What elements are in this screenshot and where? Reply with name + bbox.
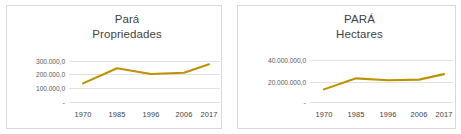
x-tick-label-2006: 2006 [176, 110, 193, 119]
x-tick-label-1985: 1985 [109, 110, 126, 119]
chart-plot-hectares: 40.000.000,0 20.000.000,0 - 1970 1985 19… [238, 6, 456, 129]
gridlines-group-hectares [310, 61, 453, 103]
series-line-hectares [324, 74, 444, 89]
x-tick-label-2006: 2006 [411, 110, 428, 119]
y-axis-labels-propriedades: 300.000,0 200.000,0 100.000,0 - [36, 58, 65, 107]
y-tick-label-40000000: 40.000.000,0 [268, 57, 306, 64]
x-tick-label-2017: 2017 [201, 110, 218, 119]
x-tick-label-1970: 1970 [316, 110, 333, 119]
chart-panel-hectares: PARÁ Hectares 40.000.000,0 20.000.000,0 … [237, 5, 456, 129]
x-tick-label-1996: 1996 [380, 110, 397, 119]
x-tick-label-1985: 1985 [348, 110, 365, 119]
x-tick-label-2017: 2017 [436, 110, 453, 119]
charts-figure: Pará Propriedades 300.000,0 200.000,0 10… [0, 0, 461, 134]
y-tick-label-zero: - [63, 98, 66, 107]
y-tick-label-200000: 200.000,0 [36, 71, 65, 78]
y-axis-labels-hectares: 40.000.000,0 20.000.000,0 - [268, 57, 306, 107]
x-tick-label-1970: 1970 [75, 110, 92, 119]
x-tick-label-1996: 1996 [143, 110, 160, 119]
y-tick-label-zero: - [304, 98, 307, 107]
x-axis-labels-propriedades: 1970 1985 1996 2006 2017 [75, 110, 218, 119]
y-tick-label-100000: 100.000,0 [36, 85, 65, 92]
chart-plot-propriedades: 300.000,0 200.000,0 100.000,0 - 1970 198… [7, 6, 222, 129]
x-axis-labels-hectares: 1970 1985 1996 2006 2017 [316, 110, 453, 119]
y-tick-label-20000000: 20.000.000,0 [268, 79, 306, 86]
y-tick-label-300000: 300.000,0 [36, 58, 65, 65]
chart-panel-propriedades: Pará Propriedades 300.000,0 200.000,0 10… [6, 5, 222, 129]
series-line-propriedades [83, 64, 209, 83]
